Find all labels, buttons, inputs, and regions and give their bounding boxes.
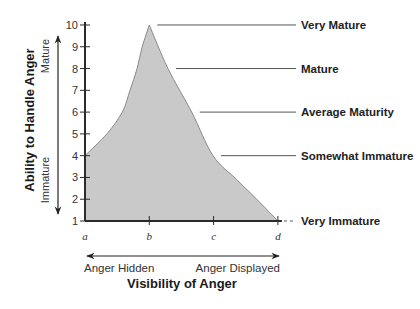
maturity-anger-diagram: 12345678910abcd Very MatureMatureAverage…	[0, 0, 420, 309]
y-tick-label: 1	[72, 215, 78, 227]
y-tick-label: 10	[66, 19, 78, 31]
x-axis-title: Visibility of Anger	[127, 276, 237, 291]
y-tick-label: 2	[72, 193, 78, 205]
x-direction-right-label: Anger Displayed	[196, 262, 280, 274]
x-direction-left-label: Anger Hidden	[84, 262, 154, 274]
y-tick-label: 4	[72, 150, 78, 162]
annotation-label: Very Immature	[301, 215, 380, 227]
y-tick-label: 7	[72, 84, 78, 96]
y-tick-label: 3	[72, 171, 78, 183]
annotation-label: Somewhat Immature	[301, 150, 413, 162]
y-tick-label: 8	[72, 63, 78, 75]
y-axis-title: Ability to Handle Anger	[22, 48, 37, 191]
y-tick-label: 5	[72, 128, 78, 140]
y-tick-label: 6	[72, 106, 78, 118]
x-tick-label: c	[211, 230, 216, 242]
annotation-label: Very Mature	[301, 19, 366, 31]
annotation-label: Average Maturity	[301, 106, 394, 118]
area-layer	[85, 25, 278, 221]
annotation-label: Mature	[301, 63, 339, 75]
x-tick-label: b	[147, 230, 153, 242]
x-tick-label: a	[82, 230, 88, 242]
x-tick-label: d	[275, 230, 281, 242]
y-direction-bottom-label: Immature	[39, 157, 51, 203]
y-tick-label: 9	[72, 41, 78, 53]
y-direction-top-label: Mature	[39, 39, 51, 73]
